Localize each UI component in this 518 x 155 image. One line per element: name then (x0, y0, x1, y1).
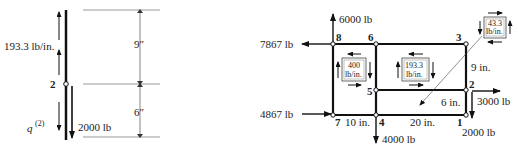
right-figure: 8 6 3 5 2 7 4 1 6000 lb 7867 lb 4867 lb … (260, 13, 511, 145)
node-8-marker (331, 42, 335, 46)
left-figure: 193.3 lb/in. 2 q (2) 2000 lb 9″ 6″ (4, 10, 160, 140)
panel-400-unit: lb/in. (345, 70, 362, 79)
force-6000-label: 6000 lb (339, 13, 373, 25)
node-6-marker (374, 42, 378, 46)
node-5-label: 5 (367, 85, 373, 97)
dim-6-in-label: 6 in. (441, 96, 461, 108)
dim-10-in-label: 10 in. (345, 116, 370, 128)
node-8-label: 8 (336, 31, 342, 43)
force-2000-label: 2000 lb (78, 121, 112, 133)
panel-193: 193.3 lb/in. (398, 54, 433, 85)
force-2000-label-right: 2000 lb (462, 126, 496, 138)
dim-9-label: 9″ (134, 38, 144, 50)
panel-400: 400 lb/in. (338, 54, 370, 85)
panel-193-value: 193.3 (405, 61, 423, 70)
force-4867-label: 4867 lb (260, 108, 294, 120)
force-7867-label: 7867 lb (260, 38, 294, 50)
node-5-marker (374, 88, 378, 92)
dim-9-in-label: 9 in. (471, 61, 491, 73)
force-4000-label: 4000 lb (382, 133, 416, 145)
panel-43-unit: lb/in. (486, 27, 503, 36)
q-superscript: (2) (35, 119, 45, 128)
node-4-marker (374, 113, 378, 117)
node-3-label: 3 (456, 31, 462, 43)
force-3000-label: 3000 lb (477, 95, 511, 107)
diagram-canvas: 193.3 lb/in. 2 q (2) 2000 lb 9″ 6″ (0, 0, 518, 155)
shear-flow-label: 193.3 lb/in. (4, 40, 55, 52)
q-label: q (27, 122, 33, 134)
dim-6-label: 6″ (134, 106, 144, 118)
node-2-marker (464, 88, 468, 92)
node-2-marker (64, 82, 69, 87)
panel-43: 43.3 lb/in. (480, 13, 510, 42)
node-6-label: 6 (368, 31, 374, 43)
panel-193-unit: lb/in. (406, 70, 423, 79)
node-3-marker (464, 42, 468, 46)
node-1-marker (464, 113, 468, 117)
panel-400-value: 400 (348, 61, 360, 70)
node-2-label: 2 (50, 78, 56, 90)
dim-20-in-label: 20 in. (410, 116, 435, 128)
node-7-label: 7 (335, 116, 341, 128)
node-2-label-right: 2 (469, 78, 475, 90)
node-4-label: 4 (379, 116, 385, 128)
